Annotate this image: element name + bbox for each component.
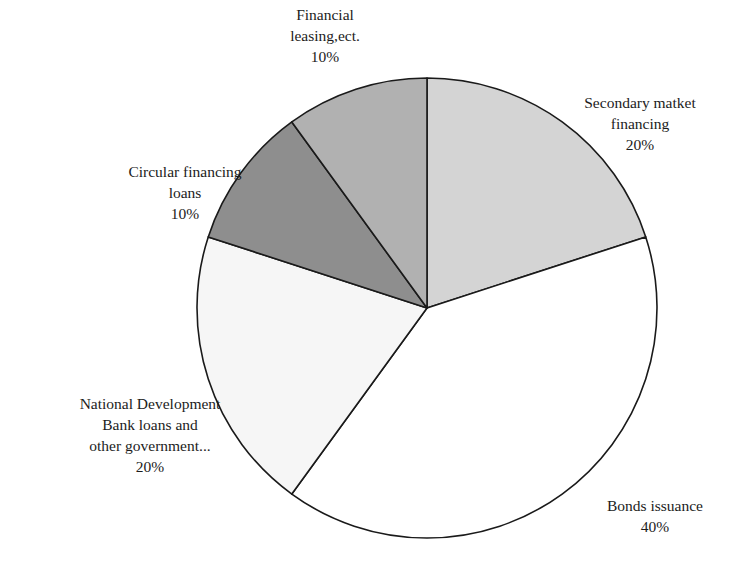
- label-bonds-issuance: Bonds issuance 40%: [570, 495, 735, 537]
- label-financial-leasing: Financial leasing,ect. 10%: [255, 4, 395, 67]
- pie-chart: [0, 0, 735, 565]
- label-national-development-bank-loans: National Development Bank loans and othe…: [30, 393, 270, 477]
- label-secondary-market-financing: Secondary matket financing 20%: [555, 92, 725, 155]
- label-circular-financing-loans: Circular financing loans 10%: [100, 161, 270, 224]
